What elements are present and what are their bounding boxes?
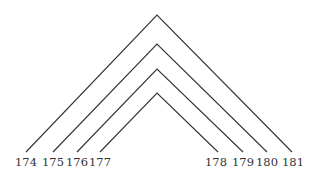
- label-179: 179: [232, 155, 254, 169]
- label-174: 174: [15, 155, 37, 169]
- label-176: 176: [66, 155, 88, 169]
- arch-175-180: [53, 44, 267, 152]
- arch-lines: [0, 0, 316, 179]
- label-177: 177: [89, 155, 111, 169]
- arch-176-179: [77, 69, 243, 152]
- arch-177-178: [100, 93, 218, 152]
- label-180: 180: [256, 155, 278, 169]
- nested-arch-diagram: 174175176177178179180181: [0, 0, 316, 179]
- arch-174-181: [26, 15, 292, 152]
- label-181: 181: [282, 155, 304, 169]
- label-175: 175: [42, 155, 64, 169]
- label-178: 178: [205, 155, 227, 169]
